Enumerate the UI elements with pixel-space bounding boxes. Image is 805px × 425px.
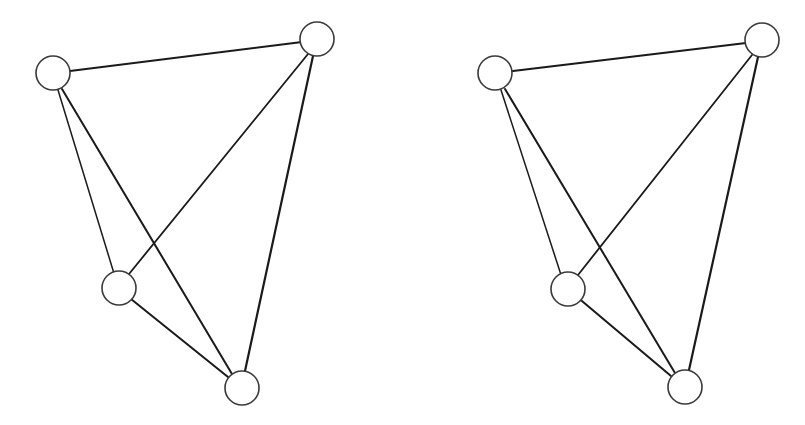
- edge-b-c: [578, 55, 752, 275]
- edge-b-c: [129, 54, 308, 274]
- node-a-circle-icon: [478, 56, 512, 90]
- edge-a-d: [62, 89, 232, 374]
- edge-a-b: [70, 42, 302, 71]
- node-d-circle-icon: [668, 370, 702, 404]
- node-b-circle-icon: [300, 22, 334, 56]
- node-c-circle-icon: [551, 272, 585, 306]
- edge-b-d: [689, 57, 758, 370]
- edge-c-d: [576, 296, 671, 376]
- edge-a-b: [513, 43, 746, 71]
- edge-a-c: [501, 90, 563, 281]
- node-b-circle-icon: [745, 23, 779, 57]
- graph-canvas: [0, 0, 805, 425]
- right-graph-panel: [478, 23, 779, 404]
- edge-a-d: [505, 89, 675, 373]
- edge-a-c: [58, 90, 116, 280]
- node-a-circle-icon: [36, 56, 70, 90]
- stereo-graph-figure: [0, 0, 805, 425]
- node-d-circle-icon: [225, 371, 259, 405]
- node-c-circle-icon: [102, 271, 136, 305]
- left-graph-panel: [36, 22, 334, 405]
- edge-c-d: [126, 295, 228, 377]
- edge-b-d: [245, 56, 313, 371]
